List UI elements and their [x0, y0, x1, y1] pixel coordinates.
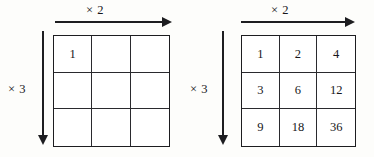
grid-cell [131, 109, 169, 146]
grid-left: 1 [53, 35, 170, 147]
grid-cell: 12 [317, 73, 355, 110]
grid-cell: 6 [280, 73, 318, 110]
grid-cell [92, 36, 130, 73]
grid-cell: 9 [242, 109, 280, 146]
column-multiplier-label-right: × 2 [271, 4, 289, 17]
grid-cell: 3 [242, 73, 280, 110]
grid-cell [92, 109, 130, 146]
grid-cell: 4 [317, 36, 355, 73]
grid-cell [54, 73, 92, 110]
grid-cell [54, 109, 92, 146]
grid-cell [131, 73, 169, 110]
grid-cell: 1 [54, 36, 92, 73]
diagram-canvas: × 2 × 3 1 × 2 × 3 1 2 4 3 6 12 [0, 0, 374, 157]
column-multiplier-label-left: × 2 [86, 4, 104, 17]
grid-cell: 1 [242, 36, 280, 73]
column-arrow-left [55, 21, 163, 23]
column-arrow-right [241, 21, 346, 23]
diagram-panel-right: × 2 × 3 1 2 4 3 6 12 9 18 36 [187, 0, 374, 157]
row-arrow-right [222, 31, 224, 136]
diagram-panel-left: × 2 × 3 1 [0, 0, 187, 157]
grid-right: 1 2 4 3 6 12 9 18 36 [241, 35, 356, 147]
grid-cell [92, 73, 130, 110]
grid-cell: 18 [280, 109, 318, 146]
grid-cell [131, 36, 169, 73]
row-multiplier-label-left: × 3 [8, 83, 26, 96]
grid-cell: 36 [317, 109, 355, 146]
row-multiplier-label-right: × 3 [190, 83, 208, 96]
grid-cell: 2 [280, 36, 318, 73]
row-arrow-left [42, 31, 44, 136]
